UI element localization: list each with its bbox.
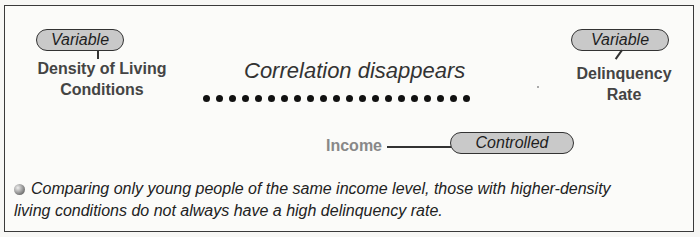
left-label-line2: Conditions [22,79,182,100]
control-tag: Controlled [450,132,574,154]
dot [242,95,249,102]
right-label-line2: Rate [574,84,674,105]
note-line2: living conditions do not always have a h… [14,200,611,222]
right-label-line1: Delinquency [574,63,674,84]
dot [294,95,301,102]
dot [281,95,288,102]
dot [333,95,340,102]
dot [398,95,405,102]
dot [385,95,392,102]
left-variable-tag: Variable [36,29,124,51]
dot [359,95,366,102]
dot [307,95,314,102]
note-line1: Comparing only young people of the same … [31,180,611,197]
dot [450,95,457,102]
dot [229,95,236,102]
dot [203,95,210,102]
dot [463,95,470,102]
dot [320,95,327,102]
dot [437,95,444,102]
dot [268,95,275,102]
right-variable-tag: Variable [571,29,669,51]
dot [346,95,353,102]
right-variable-label: Delinquency Rate [574,63,674,105]
dot [424,95,431,102]
control-connector [387,146,451,148]
dot [255,95,262,102]
relationship-title: Correlation disappears [244,58,465,84]
dot [411,95,418,102]
left-variable-label: Density of Living Conditions [22,58,182,100]
speck [537,86,539,88]
bullet-icon [14,184,25,195]
left-label-line1: Density of Living [22,58,182,79]
explanation-note: Comparing only young people of the same … [14,178,611,222]
dot [372,95,379,102]
control-label: Income [326,135,382,156]
dot [216,95,223,102]
dotted-relationship-line [203,95,470,102]
